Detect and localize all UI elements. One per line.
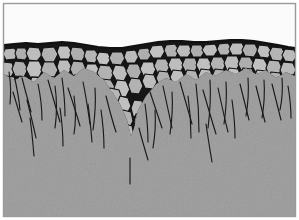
- cross-section-illustration: [0, 0, 299, 220]
- figure-root: Geologic cross-section showing an undula…: [0, 0, 299, 220]
